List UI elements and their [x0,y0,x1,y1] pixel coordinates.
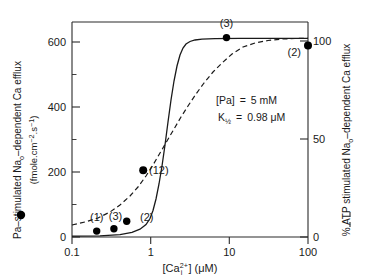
x-tick-label-10: 10 [223,246,235,258]
left-axis-ticks [72,42,80,237]
right-tick-label-0: 0 [313,231,319,243]
solid-sigmoid-curve [72,38,308,236]
right-axis-tick-labels: 0 50 100 [313,35,331,243]
right-tick-label-100: 100 [313,35,331,47]
right-tick-label-50: 50 [313,133,325,145]
left-axis-title-lead: Pa [12,226,23,239]
data-point [304,41,312,49]
chart-figure: 0 200 400 600 0 50 100 0.1 1 10 100 [0,0,368,278]
annotation-k-half: K½=0.98 μM [218,111,285,126]
data-point-label: (2) [140,211,153,223]
x-axis-title-tail: ] ( [188,262,198,274]
data-point-label: (3) [220,17,233,29]
x-tick-label-100: 100 [299,246,317,258]
data-point [123,218,130,225]
data-point-label: (1) [90,211,103,223]
data-point [110,225,117,232]
plot-frame [72,22,308,237]
data-point [93,227,100,234]
left-tick-label-0: 0 [60,231,66,243]
x-axis-ticks [72,237,308,244]
x-axis-title-lead: [Ca [163,262,181,274]
data-point-label: (3) [109,210,122,222]
right-axis-ticks [300,41,308,237]
left-tick-label-200: 200 [48,166,66,178]
right-axis-title-tail: –dependent Ca efflux [341,44,352,139]
data-point [139,166,147,174]
data-point-label: (12) [149,164,169,176]
left-tick-label-400: 400 [48,101,66,113]
annotation-k-value: 0.98 μM [247,111,285,123]
data-point [223,34,230,41]
legend-filled-circle-icon [17,211,25,219]
x-axis-tick-labels: 0.1 1 10 100 [64,246,317,258]
left-axis-units: (fmole.cm−2.s−1) [27,116,40,185]
left-axis-title-tail: –dependent Ca efflux [12,61,23,156]
left-tick-label-600: 600 [48,36,66,48]
left-axis-units-lead: (fmole.cm [28,143,39,185]
dashed-sigmoid-curve [72,38,308,225]
left-axis-tick-labels: 0 200 400 600 [48,36,66,243]
x-axis-title: [Ca2+ ] (μM) [163,261,218,277]
data-point-label: (2) [288,46,301,58]
left-axis-units-tail: ) [28,116,39,119]
left-axis-units-sup1: −2 [27,134,36,142]
annotation-k-sub: ½ [225,117,231,126]
annotation-pa-eq: = [240,94,246,106]
chart-svg: 0 200 400 600 0 50 100 0.1 1 10 100 [0,0,368,278]
annotation-pa-value: 5 mM [251,94,277,106]
annotation-pa-lead: [Pa] [216,94,235,106]
annotation-k-lead: K [218,111,225,123]
data-points [93,34,312,235]
x-tick-label-0.1: 0.1 [64,246,79,258]
plot-annotations: [Pa]=5 mM K½=0.98 μM [216,94,285,126]
x-tick-label-1: 1 [148,246,154,258]
annotation-pa-concentration: [Pa]=5 mM [216,94,277,106]
x-axis-title-unit: μM) [198,262,217,274]
annotation-k-eq: = [236,111,242,123]
right-axis-title: % ATP stimulated Nao–dependent Ca efflux [341,44,355,236]
left-axis-units-sup2: −1 [27,119,36,127]
